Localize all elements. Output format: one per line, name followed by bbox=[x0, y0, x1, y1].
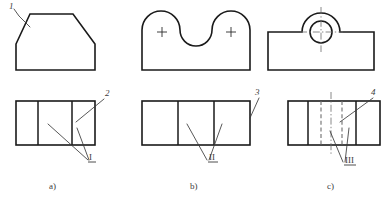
label-3: 3 bbox=[254, 87, 260, 97]
twin-lobe-front-view bbox=[142, 11, 250, 70]
label-4: 4 bbox=[371, 87, 376, 97]
center-mark-right bbox=[226, 27, 236, 37]
leader-line-roman-II-left bbox=[187, 124, 207, 160]
label-roman-I: I bbox=[89, 152, 92, 162]
label-2: 2 bbox=[105, 88, 110, 98]
figure-group-c: 4 III c) bbox=[268, 7, 380, 191]
label-1: 1 bbox=[9, 1, 14, 11]
drawing-canvas: 1 2 I a) bbox=[0, 0, 381, 197]
technical-drawing-sheet: 1 2 I a) bbox=[0, 0, 381, 197]
leader-line-2 bbox=[76, 99, 104, 122]
label-roman-III: III bbox=[345, 155, 354, 165]
center-mark-left bbox=[157, 27, 167, 37]
label-roman-II: II bbox=[209, 152, 215, 162]
leader-line-3 bbox=[250, 98, 259, 118]
chamfered-block-front-view bbox=[16, 14, 95, 70]
three-panel-top-view-a bbox=[16, 101, 95, 145]
figure-group-a: 1 2 I a) bbox=[9, 1, 110, 191]
caption-c: c) bbox=[327, 181, 334, 191]
three-panel-top-view-b bbox=[142, 101, 250, 145]
leader-line-roman-III-left bbox=[330, 131, 343, 162]
figure-group-b: 3 II b) bbox=[142, 11, 260, 191]
caption-b: b) bbox=[190, 181, 198, 191]
caption-a: a) bbox=[49, 181, 56, 191]
four-panel-top-view-c bbox=[288, 101, 380, 145]
